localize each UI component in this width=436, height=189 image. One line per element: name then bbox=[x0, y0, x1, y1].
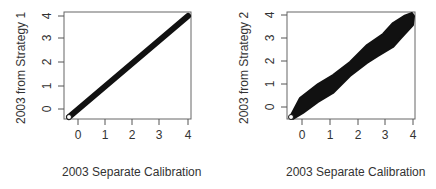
x-tick-label: 0 bbox=[299, 128, 306, 142]
y-tick-label: 2 bbox=[263, 58, 277, 65]
y-axis-label: 2003 from Strategy 2 bbox=[237, 12, 251, 124]
y-tick-label: 0 bbox=[263, 104, 277, 111]
x-axis-label: 2003 Separate Calibration bbox=[286, 165, 425, 179]
data-points bbox=[289, 13, 415, 120]
x-tick-label: 3 bbox=[156, 128, 163, 142]
x-tick-label: 2 bbox=[129, 128, 136, 142]
y-tick-label: 1 bbox=[263, 81, 277, 88]
x-tick-label: 0 bbox=[75, 128, 82, 142]
y-tick-label: 1 bbox=[40, 83, 54, 90]
scatter-panel-strategy-1: 0 1 2 3 4 0 1 2 3 4 2003 Separate Calibr… bbox=[0, 0, 218, 189]
plot-area-strategy-1 bbox=[0, 0, 218, 189]
x-tick-label: 4 bbox=[410, 128, 417, 142]
x-tick-label: 4 bbox=[185, 128, 192, 142]
x-tick-label: 2 bbox=[355, 128, 362, 142]
y-tick-label: 3 bbox=[263, 35, 277, 42]
x-axis-label: 2003 Separate Calibration bbox=[62, 165, 201, 179]
x-tick-label: 1 bbox=[327, 128, 334, 142]
y-tick-label: 3 bbox=[40, 35, 54, 42]
scatter-panel-strategy-2: 0 1 2 3 4 0 1 2 3 4 2003 Separate Calibr… bbox=[218, 0, 436, 189]
x-tick-label: 1 bbox=[102, 128, 109, 142]
x-tick-label: 3 bbox=[382, 128, 389, 142]
y-tick-label: 0 bbox=[40, 106, 54, 113]
y-axis-label: 2003 from Strategy 1 bbox=[14, 12, 28, 124]
y-tick-label: 4 bbox=[40, 13, 54, 20]
y-tick-label: 2 bbox=[40, 59, 54, 66]
data-points bbox=[67, 16, 189, 120]
y-tick-label: 4 bbox=[263, 12, 277, 19]
